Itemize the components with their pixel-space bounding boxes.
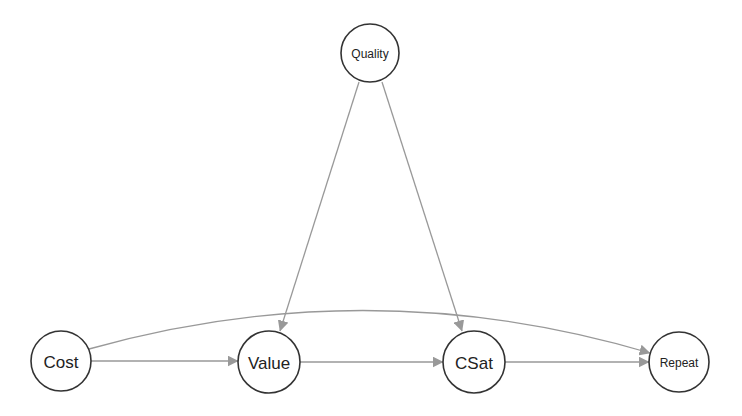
node-value[interactable]: Value — [238, 331, 300, 393]
causal-diagram: Quality Cost Value CSat Repeat — [0, 0, 742, 416]
node-quality[interactable]: Quality — [341, 24, 399, 82]
edge-quality-to-csat — [382, 82, 462, 331]
edges — [89, 82, 650, 362]
node-csat[interactable]: CSat — [443, 331, 505, 393]
node-quality-label: Quality — [351, 47, 388, 61]
node-cost[interactable]: Cost — [31, 331, 91, 391]
node-repeat[interactable]: Repeat — [649, 332, 709, 392]
node-value-label: Value — [248, 354, 290, 373]
node-csat-label: CSat — [455, 354, 493, 373]
node-repeat-label: Repeat — [660, 356, 699, 370]
edge-cost-to-repeat-curved — [89, 310, 650, 353]
edge-quality-to-value — [280, 82, 359, 331]
node-cost-label: Cost — [44, 353, 79, 372]
